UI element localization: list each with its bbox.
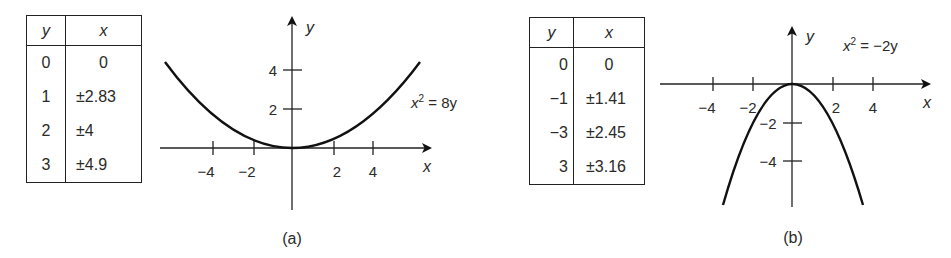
x-tick-label: −4 [698,99,715,116]
x-tick-label: 4 [869,99,877,116]
value-table-a: y x 0 0 1 ±2.83 2 ±4 3 ±4.9 [26,15,142,183]
table-cell-x: ±3.16 [574,150,645,185]
table-row: 2 ±4 [27,114,142,148]
table-cell-y: −3 [530,116,574,150]
x-tick-label: 2 [333,163,341,180]
table-cell-y: 1 [27,80,66,114]
y-tick-label: −4 [759,153,776,170]
table-cell-x: 0 [574,48,645,83]
y-ticks [283,70,302,109]
table-header-y: y [27,16,66,46]
table-cell-x: ±4.9 [66,148,142,183]
x-tick-label: −4 [197,163,214,180]
table-row: 1 ±2.83 [27,80,142,114]
caption-b: (b) [783,229,803,246]
y-axis-label: y [305,19,315,36]
y-tick-label: 2 [269,101,277,118]
x-ticks [713,77,873,91]
graph-b: −4 −2 2 4 −2 −4 y x x2 = −2y (b) [660,28,932,246]
table-header-x: x [66,16,142,46]
table-cell-x: ±2.83 [66,80,142,114]
x-axis-label: x [422,158,432,175]
table-cell-y: −1 [530,82,574,116]
caption-a: (a) [282,230,302,247]
table-row: 0 0 [530,48,645,83]
x-tick-label: −2 [238,163,255,180]
table-row: −3 ±2.45 [530,116,645,150]
table-cell-y: 2 [27,114,66,148]
table-cell-y: 3 [27,148,66,183]
x-tick-label: 2 [832,99,840,116]
table-header-y: y [530,18,574,48]
parabola-figures: −4 −2 2 4 4 2 y x x2 = 8y (a) [0,0,951,258]
equation-label-a: x2 = 8y [410,93,457,111]
graph-a: −4 −2 2 4 4 2 y x x2 = 8y (a) [160,18,457,247]
table-row: 3 ±3.16 [530,150,645,185]
x-axis-label: x [922,94,932,111]
parabola-curve-b [723,84,863,205]
table-cell-x: ±4 [66,114,142,148]
table-header-x: x [574,18,645,48]
y-axis-label: y [805,28,815,45]
table-row: 0 0 [27,46,142,81]
x-ticks [213,141,373,155]
table-cell-y: 0 [530,48,574,83]
x-tick-label: 4 [369,163,377,180]
table-row: −1 ±1.41 [530,82,645,116]
y-tick-label: 4 [269,62,277,79]
equation-label-b: x2 = −2y [842,36,898,54]
table-cell-x: 0 [66,46,142,81]
x-tick-label: −2 [739,99,756,116]
table-cell-x: ±1.41 [574,82,645,116]
table-cell-y: 3 [530,150,574,185]
table-cell-y: 0 [27,46,66,81]
parabola-curve-a [165,62,420,148]
value-table-b: y x 0 0 −1 ±1.41 −3 ±2.45 3 ±3.16 [529,17,645,185]
table-cell-x: ±2.45 [574,116,645,150]
y-tick-label: −2 [759,115,776,132]
y-ticks [783,123,802,161]
table-row: 3 ±4.9 [27,148,142,183]
